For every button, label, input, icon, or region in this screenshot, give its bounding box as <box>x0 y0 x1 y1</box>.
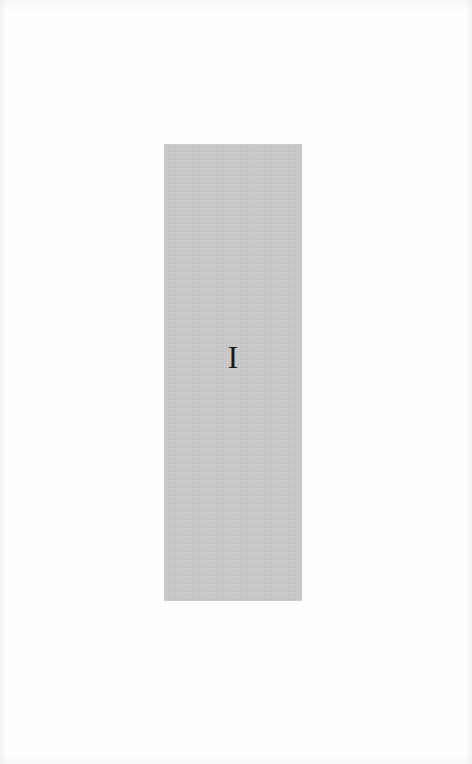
left-page-edge <box>0 0 6 764</box>
scanned-page: I <box>0 0 472 764</box>
top-bleed-through <box>0 0 472 14</box>
bottom-bleed-through <box>0 754 472 764</box>
gray-plate-placeholder: I <box>164 144 302 601</box>
right-page-edge <box>466 0 472 764</box>
plate-roman-numeral: I <box>164 340 302 376</box>
